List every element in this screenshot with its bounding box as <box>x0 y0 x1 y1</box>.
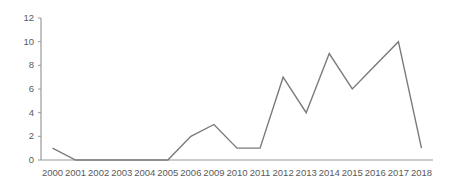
y-tick-label: 4 <box>10 108 34 118</box>
x-tick-label-2001: 2001 <box>64 168 87 178</box>
x-tick-label-2003: 2003 <box>110 168 133 178</box>
x-tick-label-2017: 2017 <box>387 168 410 178</box>
data-series-line <box>53 42 422 160</box>
y-tick-label: 0 <box>10 155 34 165</box>
x-tick-label-2015: 2015 <box>341 168 364 178</box>
x-tick-label-2002: 2002 <box>87 168 110 178</box>
chart-plot-area <box>0 0 449 183</box>
x-tick-label-2014: 2014 <box>318 168 341 178</box>
x-tick-label-2018: 2018 <box>410 168 433 178</box>
x-tick-label-2005: 2005 <box>156 168 179 178</box>
x-tick-label-2012: 2012 <box>272 168 295 178</box>
x-tick-label-2010: 2010 <box>225 168 248 178</box>
axis-group <box>41 18 433 160</box>
y-tick-label: 10 <box>10 37 34 47</box>
y-tick-label: 12 <box>10 13 34 23</box>
x-tick-label-2013: 2013 <box>295 168 318 178</box>
x-tick-label-2006: 2006 <box>179 168 202 178</box>
x-tick-label-2016: 2016 <box>364 168 387 178</box>
y-tick-label: 8 <box>10 60 34 70</box>
x-tick-label-2000: 2000 <box>41 168 64 178</box>
x-tick-label-2004: 2004 <box>133 168 156 178</box>
x-tick-label-2011: 2011 <box>249 168 272 178</box>
x-tick-label-2009: 2009 <box>202 168 225 178</box>
y-tick-label: 2 <box>10 131 34 141</box>
y-tick-label: 6 <box>10 84 34 94</box>
line-chart: 024681012 200020012002200320042005200620… <box>0 0 449 183</box>
